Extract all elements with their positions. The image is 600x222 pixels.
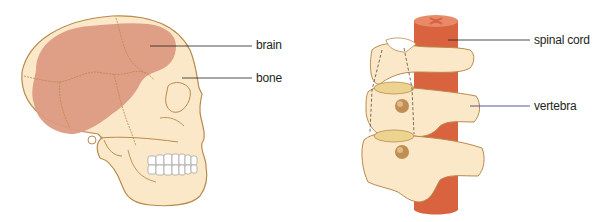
skull-illustration — [22, 16, 252, 206]
label-brain: brain — [256, 38, 282, 52]
anatomy-figure: brain bone spinal cord vertebra — [0, 0, 600, 222]
label-bone: bone — [256, 71, 282, 85]
intervertebral-disc — [374, 82, 414, 94]
teeth — [148, 154, 197, 175]
label-vertebra: vertebra — [534, 99, 576, 113]
spine-illustration — [362, 15, 530, 215]
label-spinal-cord: spinal cord — [534, 33, 590, 47]
vertebra-bottom — [362, 133, 484, 202]
anatomy-illustration — [0, 0, 600, 222]
